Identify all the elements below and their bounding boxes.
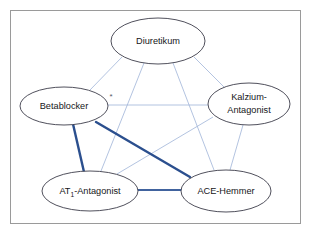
edge-diuretikum-at1-antagonist (101, 63, 144, 171)
betablocker-label: Betablocker (40, 101, 89, 111)
edge-betablocker-ace-hemmer (96, 122, 190, 177)
at1-antagonist-label-suffix: -Antagonist (74, 186, 121, 196)
at1-antagonist-label-prefix: AT (59, 186, 70, 196)
edge-kalzium-antagonist-at1-antagonist (117, 117, 213, 174)
node-diuretikum[interactable]: Diuretikum (111, 18, 205, 64)
diuretikum-label: Diuretikum (136, 36, 180, 46)
at1-antagonist-label: AT1-Antagonist (59, 186, 121, 197)
node-betablocker[interactable]: Betablocker (20, 87, 108, 125)
ace-hemmer-label: ACE-Hemmer (197, 186, 254, 196)
edge-kalzium-antagonist-ace-hemmer (230, 125, 243, 170)
edge-diuretikum-kalzium-antagonist (194, 57, 225, 88)
combination-diagram: * Diuretikum Betablocker Kalzium- Antago… (0, 0, 311, 235)
footnote-asterisk-icon: * (109, 92, 112, 101)
edge-betablocker-at1-antagonist (73, 124, 84, 172)
node-kalzium-antagonist[interactable]: Kalzium- Antagonist (208, 83, 290, 125)
annotation-layer: * (109, 92, 112, 101)
kalzium-antagonist-ellipse[interactable] (208, 83, 290, 125)
node-at1-antagonist[interactable]: AT1-Antagonist (42, 171, 138, 211)
node-ace-hemmer[interactable]: ACE-Hemmer (181, 170, 271, 212)
edge-diuretikum-ace-hemmer (173, 63, 214, 170)
figure-root: * Diuretikum Betablocker Kalzium- Antago… (0, 0, 311, 235)
kalzium-antagonist-label-line2: Antagonist (227, 105, 271, 115)
edge-diuretikum-betablocker (90, 57, 122, 90)
kalzium-antagonist-label-line1: Kalzium- (231, 92, 267, 102)
